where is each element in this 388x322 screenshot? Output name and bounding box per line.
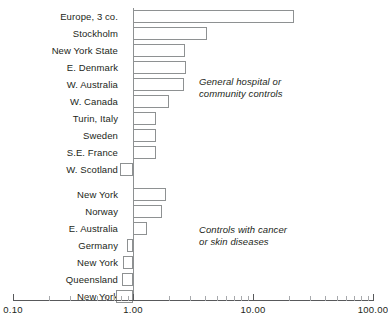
- bar: [133, 27, 207, 40]
- plot-area: [0, 0, 388, 300]
- x-axis-minor-tick: [128, 296, 129, 301]
- bar: [133, 222, 147, 235]
- log-scale-bar-chart: Europe, 3 co.StockholmNew York StateE. D…: [0, 0, 388, 322]
- x-axis-tick-label: 100.00: [358, 304, 388, 315]
- x-axis-minor-tick: [361, 296, 362, 301]
- bar: [133, 112, 156, 125]
- x-axis-tick: [13, 294, 14, 301]
- bar: [127, 239, 133, 252]
- x-axis-minor-tick: [325, 296, 326, 301]
- x-axis-tick: [373, 294, 374, 301]
- x-axis-minor-tick: [217, 296, 218, 301]
- bar: [133, 10, 294, 23]
- x-axis-minor-tick: [97, 296, 98, 301]
- bar: [133, 95, 169, 108]
- x-axis-minor-tick: [70, 296, 71, 301]
- x-axis-minor-tick: [289, 296, 290, 301]
- x-axis-tick-label: 0.10: [3, 304, 22, 315]
- x-axis-tick: [133, 294, 134, 301]
- bar: [116, 290, 133, 303]
- annotation-cancer-skin-controls: Controls with cancer or skin diseases: [199, 224, 287, 247]
- bar: [123, 256, 133, 269]
- x-axis-minor-tick: [241, 296, 242, 301]
- x-axis-minor-tick: [337, 296, 338, 301]
- x-axis-tick-label: 1.00: [123, 304, 142, 315]
- bar: [133, 205, 162, 218]
- bar: [120, 163, 133, 176]
- x-axis-minor-tick: [234, 296, 235, 301]
- x-axis-minor-tick: [346, 296, 347, 301]
- x-axis-minor-tick: [169, 296, 170, 301]
- x-axis-minor-tick: [368, 296, 369, 301]
- x-axis-minor-tick: [49, 296, 50, 301]
- x-axis-minor-tick: [121, 296, 122, 301]
- x-axis-minor-tick: [310, 296, 311, 301]
- x-axis-tick: [253, 294, 254, 301]
- annotation-general-hospital-controls: General hospital or community controls: [199, 76, 283, 99]
- x-axis-minor-tick: [106, 296, 107, 301]
- x-axis-minor-tick: [114, 296, 115, 301]
- bar: [133, 129, 156, 142]
- x-axis-minor-tick: [85, 296, 86, 301]
- bar: [133, 188, 166, 201]
- bar: [133, 146, 156, 159]
- x-axis-minor-tick: [226, 296, 227, 301]
- bar: [133, 78, 184, 91]
- bar: [133, 61, 186, 74]
- x-axis-line: [13, 300, 373, 301]
- x-axis-minor-tick: [248, 296, 249, 301]
- x-axis-tick-label: 10.00: [241, 304, 266, 315]
- bar: [133, 44, 185, 57]
- x-axis-minor-tick: [190, 296, 191, 301]
- x-axis-minor-tick: [205, 296, 206, 301]
- x-axis-minor-tick: [354, 296, 355, 301]
- bar: [122, 273, 133, 286]
